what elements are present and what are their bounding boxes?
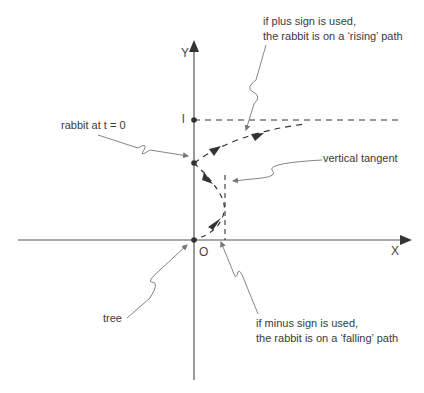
rising-arrow-icon-2 xyxy=(251,133,264,141)
leader-vertical-tangent xyxy=(233,160,322,181)
annotation-falling-line2: the rabbit is on a ‘falling’ path xyxy=(256,331,398,346)
annotation-falling: if minus sign is used, the rabbit is on … xyxy=(256,316,398,346)
annotation-vertical-tangent: vertical tangent xyxy=(323,151,398,166)
leader-rising xyxy=(246,45,266,130)
x-axis-arrow-icon xyxy=(400,235,412,245)
annotation-tree: tree xyxy=(103,311,122,326)
annotation-falling-line1: if minus sign is used, xyxy=(256,316,398,331)
origin-label: O xyxy=(199,245,208,259)
rising-path xyxy=(194,124,305,163)
annotation-rising-line1: if plus sign is used, xyxy=(263,14,403,29)
falling-path xyxy=(194,163,224,240)
leader-falling xyxy=(221,242,258,314)
y-axis-arrow-icon xyxy=(189,40,199,52)
tick-label-l: l xyxy=(182,112,185,126)
y-axis-label: Y xyxy=(181,46,189,60)
annotation-rising: if plus sign is used, the rabbit is on a… xyxy=(263,14,403,44)
annotation-rising-line2: the rabbit is on a ‘rising’ path xyxy=(263,29,403,44)
leader-start xyxy=(98,135,188,156)
x-axis-label: X xyxy=(391,244,399,258)
falling-arrow-icon xyxy=(202,172,213,184)
annotation-start: rabbit at t = 0 xyxy=(61,118,126,133)
rising-arrow-icon xyxy=(209,146,221,156)
leader-tree xyxy=(127,245,187,318)
